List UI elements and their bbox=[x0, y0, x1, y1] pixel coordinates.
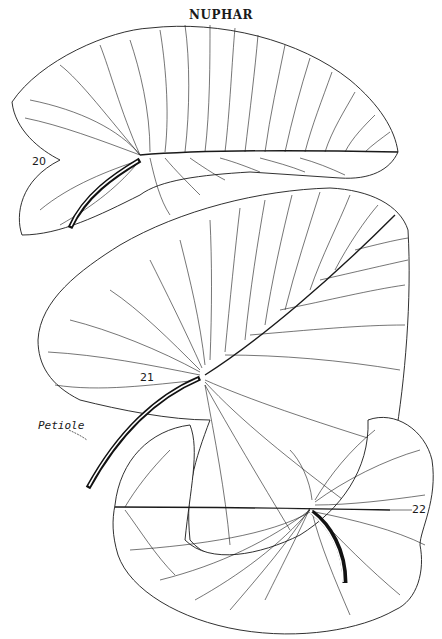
illustration-canvas bbox=[0, 0, 442, 639]
petiole-label: Petiole bbox=[38, 419, 84, 432]
figure-label-21: 21 bbox=[140, 371, 154, 384]
figure-label-20: 20 bbox=[32, 155, 46, 168]
figure-label-22: 22 bbox=[412, 503, 426, 516]
